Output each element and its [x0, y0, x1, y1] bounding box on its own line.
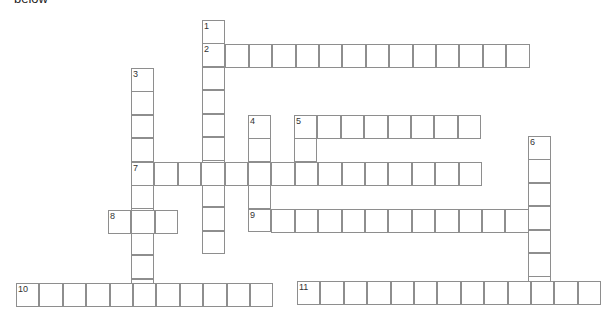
crossword-cell[interactable] [203, 283, 226, 307]
crossword-cell[interactable] [434, 115, 457, 139]
crossword-cell[interactable]: 3 [131, 68, 154, 92]
crossword-cell[interactable] [342, 162, 365, 186]
crossword-cell[interactable] [180, 283, 203, 307]
crossword-cell[interactable] [435, 209, 458, 233]
crossword-cell[interactable] [411, 115, 434, 139]
crossword-cell[interactable] [459, 44, 482, 68]
crossword-cell[interactable] [435, 162, 458, 186]
crossword-cell[interactable] [365, 162, 388, 186]
crossword-cell[interactable] [131, 138, 154, 162]
crossword-cell[interactable]: 2 [202, 43, 225, 67]
crossword-cell[interactable] [110, 283, 133, 307]
crossword-cell[interactable] [319, 44, 342, 68]
crossword-cell[interactable] [388, 115, 411, 139]
crossword-cell[interactable] [272, 44, 295, 68]
crossword-cell[interactable] [156, 283, 179, 307]
crossword-cell[interactable] [131, 232, 154, 256]
crossword-cell[interactable] [202, 90, 225, 114]
crossword-cell[interactable]: 10 [16, 283, 39, 307]
crossword-cell[interactable] [412, 209, 435, 233]
crossword-cell[interactable]: 11 [297, 281, 320, 305]
crossword-cell[interactable] [412, 162, 435, 186]
crossword-cell[interactable] [459, 162, 482, 186]
crossword-cell[interactable] [388, 209, 411, 233]
crossword-cell[interactable] [248, 185, 271, 209]
crossword-cell[interactable] [295, 162, 318, 186]
crossword-cell[interactable] [155, 210, 178, 234]
crossword-cell[interactable] [364, 115, 387, 139]
crossword-cell[interactable] [202, 67, 225, 91]
crossword-cell[interactable] [554, 281, 577, 305]
crossword-cell[interactable] [131, 255, 154, 279]
crossword-cell[interactable] [366, 44, 389, 68]
crossword-cell[interactable] [294, 138, 317, 162]
crossword-cell[interactable] [367, 281, 390, 305]
crossword-cell[interactable] [250, 283, 273, 307]
crossword-cell[interactable] [131, 210, 154, 234]
crossword-cell[interactable] [414, 281, 437, 305]
crossword-cell[interactable] [482, 209, 505, 233]
crossword-cell[interactable] [528, 253, 551, 277]
crossword-cell[interactable] [459, 209, 482, 233]
crossword-cell[interactable] [202, 137, 225, 161]
crossword-cell[interactable] [296, 44, 319, 68]
crossword-cell[interactable] [227, 283, 250, 307]
crossword-cell[interactable] [578, 281, 601, 305]
crossword-cell[interactable] [131, 115, 154, 139]
crossword-cell[interactable] [389, 44, 412, 68]
crossword-cell[interactable] [154, 162, 177, 186]
crossword-cell[interactable] [271, 162, 294, 186]
crossword-cell[interactable] [484, 281, 507, 305]
crossword-cell[interactable] [225, 44, 248, 68]
crossword-cell[interactable] [388, 162, 411, 186]
crossword-cell[interactable] [505, 209, 528, 233]
crossword-cell[interactable] [320, 281, 343, 305]
crossword-cell[interactable]: 7 [131, 162, 154, 186]
crossword-cell[interactable] [506, 44, 529, 68]
crossword-cell[interactable] [458, 115, 481, 139]
crossword-cell[interactable] [413, 44, 436, 68]
crossword-cell[interactable] [202, 231, 225, 255]
crossword-cell[interactable] [391, 281, 414, 305]
crossword-cell[interactable] [437, 281, 460, 305]
crossword-cell[interactable]: 4 [248, 115, 271, 139]
crossword-cell[interactable] [318, 209, 341, 233]
crossword-cell[interactable] [436, 44, 459, 68]
crossword-cell[interactable] [342, 209, 365, 233]
crossword-cell[interactable] [531, 281, 554, 305]
crossword-cell[interactable] [202, 184, 225, 208]
crossword-cell[interactable] [528, 183, 551, 207]
crossword-cell[interactable] [295, 209, 318, 233]
crossword-cell[interactable] [133, 283, 156, 307]
crossword-cell[interactable] [131, 91, 154, 115]
crossword-cell[interactable] [271, 209, 294, 233]
crossword-cell[interactable]: 9 [248, 209, 271, 233]
crossword-cell[interactable] [508, 281, 531, 305]
crossword-cell[interactable] [248, 162, 271, 186]
crossword-cell[interactable] [317, 115, 340, 139]
crossword-cell[interactable]: 8 [108, 210, 131, 234]
crossword-cell[interactable] [342, 44, 365, 68]
crossword-cell[interactable] [318, 162, 341, 186]
crossword-cell[interactable]: 1 [202, 20, 225, 44]
crossword-cell[interactable] [248, 138, 271, 162]
crossword-cell[interactable] [178, 162, 201, 186]
crossword-cell[interactable] [39, 283, 62, 307]
crossword-cell[interactable]: 6 [528, 136, 551, 160]
crossword-cell[interactable] [528, 159, 551, 183]
crossword-cell[interactable] [365, 209, 388, 233]
crossword-cell[interactable] [86, 283, 109, 307]
crossword-cell[interactable] [202, 114, 225, 138]
crossword-cell[interactable] [528, 206, 551, 230]
crossword-cell[interactable] [344, 281, 367, 305]
crossword-cell[interactable] [528, 230, 551, 254]
crossword-cell[interactable] [341, 115, 364, 139]
crossword-cell[interactable] [131, 185, 154, 209]
crossword-cell[interactable] [63, 283, 86, 307]
crossword-cell[interactable] [201, 162, 224, 186]
crossword-cell[interactable] [461, 281, 484, 305]
crossword-cell[interactable]: 5 [294, 115, 317, 139]
crossword-cell[interactable] [249, 44, 272, 68]
crossword-cell[interactable] [202, 207, 225, 231]
crossword-cell[interactable] [483, 44, 506, 68]
